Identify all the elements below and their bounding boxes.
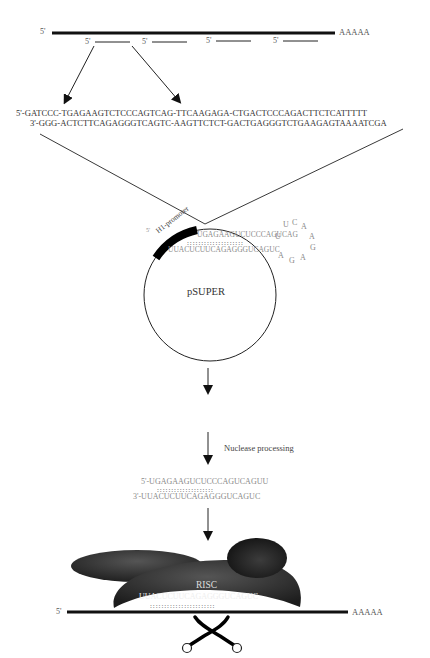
mrna-bottom-five-prime: 5' <box>56 607 61 616</box>
plasmid-name: pSUPER <box>187 286 225 297</box>
zoom-line-right <box>205 129 403 224</box>
nuclease-processing-label: Nuclease processing <box>224 443 294 453</box>
risc-label: RISC <box>196 580 217 590</box>
hairpin-bottom-strand: UUACUCUUCAGAGGGUCAGUC <box>168 245 280 254</box>
loop-letter-1: U <box>275 232 281 241</box>
target-site-label-4: 5' <box>273 36 278 45</box>
loop-letter-5: A <box>309 232 315 241</box>
loop-letter-7: A <box>300 253 306 262</box>
hairpin-top-strand: UGAGAAGUCUCCCAGUCAG <box>197 230 298 239</box>
risc-pairs: ::::::::::::::::::::::: <box>150 603 215 609</box>
sirna-sense-strand: 5'-UGAGAAGUCUCCCAGUCAGUU <box>141 477 268 486</box>
target-site-label-2: 5' <box>142 37 147 46</box>
oligo-top-strand: 5'-GATCCC-TGAGAAGTCTCCCAGTCAG-TTCAAGAGA-… <box>16 108 367 118</box>
loop-letter-9: A <box>278 251 284 260</box>
mrna-top-poly-a: AAAAA <box>339 27 370 37</box>
arrow-left <box>66 46 94 100</box>
loop-letter-6: G <box>310 243 316 252</box>
loop-letter-8: G <box>289 256 295 265</box>
loop-letter-2: U <box>283 220 289 229</box>
loop-letter-3: C <box>292 218 297 227</box>
target-site-label-3: 5' <box>206 36 211 45</box>
diagram-graphics <box>0 0 430 658</box>
scissors-icon <box>183 617 242 653</box>
risc-guide-strand: UUACUCUUCAGAGGGUCAGUC <box>139 592 258 601</box>
mrna-top-five-prime: 5' <box>40 27 45 36</box>
risc-right-lobe <box>227 538 287 578</box>
oligo-bottom-strand: 3'-GGG-ACTCTTCAGAGGGTCAGTC-AAGTTCTCT-GAC… <box>30 118 387 128</box>
target-site-label-1: 5' <box>85 37 90 46</box>
promoter-five-prime: 5' <box>146 227 150 233</box>
sirna-antisense-strand: 3'-UUACUCUUCAGAGGGUCAGUC <box>133 492 260 501</box>
arrow-right <box>132 46 178 100</box>
loop-letter-4: A <box>301 222 307 231</box>
mrna-bottom-poly-a: AAAAA <box>352 607 383 617</box>
